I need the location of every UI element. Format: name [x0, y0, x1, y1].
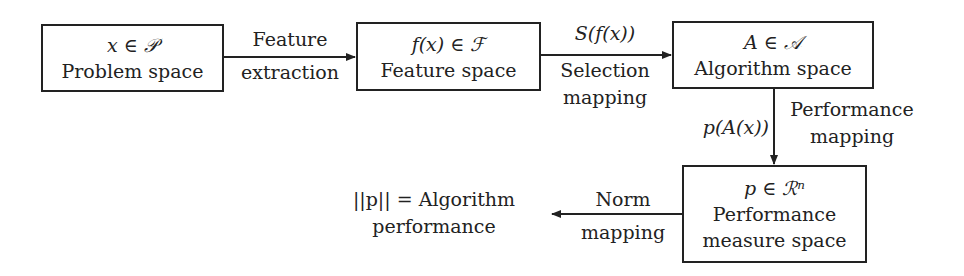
result-line2: performance — [330, 213, 538, 240]
problem-space-math: x ∈ 𝒫 — [107, 32, 158, 58]
norm-mapping-line1: Norm — [570, 186, 676, 213]
performance-space-label-1: Performance — [713, 201, 836, 227]
norm-mapping-label: Norm mapping — [570, 186, 676, 246]
feature-space-label: Feature space — [380, 57, 516, 83]
algorithm-space-box: A ∈ 𝒜 Algorithm space — [672, 21, 874, 89]
feature-extraction-line2: extraction — [224, 59, 356, 86]
feature-space-box: f(x) ∈ ℱ Feature space — [356, 22, 541, 91]
selection-mapping-math: S(f(x)) — [540, 20, 670, 47]
result-line1: ||p|| = Algorithm — [330, 186, 538, 213]
problem-space-box: x ∈ 𝒫 Problem space — [41, 24, 224, 92]
algorithm-performance-result: ||p|| = Algorithm performance — [330, 186, 538, 240]
performance-mapping-math: p(A(x)) — [683, 114, 769, 141]
performance-mapping-line2: mapping — [782, 123, 922, 150]
norm-mapping-line2: mapping — [570, 219, 676, 246]
algorithm-space-math: A ∈ 𝒜 — [744, 29, 802, 55]
algorithm-space-label: Algorithm space — [694, 55, 852, 81]
feature-extraction-label: Feature extraction — [224, 26, 356, 86]
performance-mapping-label: Performance mapping — [782, 96, 922, 150]
selection-mapping-label: S(f(x)) Selection mapping — [540, 20, 670, 111]
selection-mapping-line2: mapping — [540, 84, 670, 111]
problem-space-label: Problem space — [62, 58, 204, 84]
feature-space-math: f(x) ∈ ℱ — [412, 31, 486, 57]
performance-space-math: p ∈ ℛⁿ — [744, 175, 805, 201]
performance-mapping-line1: Performance — [782, 96, 922, 123]
feature-extraction-line1: Feature — [224, 26, 356, 53]
performance-space-label-2: measure space — [702, 227, 846, 253]
performance-measure-space-box: p ∈ ℛⁿ Performance measure space — [682, 165, 867, 263]
selection-mapping-line1: Selection — [540, 57, 670, 84]
